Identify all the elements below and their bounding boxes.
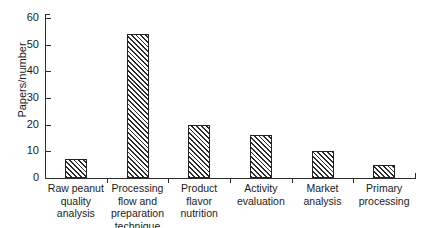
bar-chart: Papers/number 0102030405060 Raw peanut q…: [0, 0, 428, 228]
category-label: Primary processing: [354, 182, 414, 207]
category-label: Processing flow and preparation techniqu…: [108, 182, 168, 228]
bar: [65, 159, 87, 178]
bar: [312, 151, 334, 178]
y-tick: 0: [46, 178, 51, 179]
bar: [188, 125, 210, 178]
y-tick-label: 0: [33, 171, 39, 184]
y-tick-label: 30: [27, 91, 39, 104]
category-label: Product flavor nutrition: [169, 182, 229, 220]
bar: [373, 165, 395, 178]
bar: [127, 34, 149, 178]
x-axis-right-cap: [415, 173, 416, 179]
y-tick-label: 60: [27, 11, 39, 24]
bars-layer: [45, 18, 415, 178]
y-axis-title: Papers/number: [14, 0, 30, 160]
y-axis-top-cap: [45, 14, 50, 15]
plot-area: 0102030405060: [45, 18, 415, 178]
x-axis-category-labels: Raw peanut quality analysisProcessing fl…: [45, 182, 416, 228]
y-tick-label: 50: [27, 38, 39, 51]
bar: [250, 135, 272, 178]
category-label: Market analysis: [293, 182, 353, 207]
y-tick-label: 40: [27, 64, 39, 77]
y-tick-label: 10: [27, 144, 39, 157]
category-label: Activity evaluation: [231, 182, 291, 207]
y-tick-label: 20: [27, 118, 39, 131]
category-label: Raw peanut quality analysis: [46, 182, 106, 220]
